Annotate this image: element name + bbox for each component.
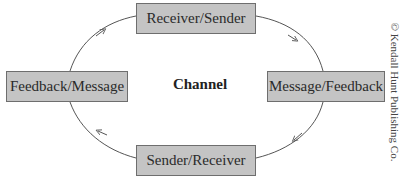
arrow-bottom-to-left xyxy=(70,102,136,158)
channel-label: Channel xyxy=(150,76,250,93)
arrowhead-bottom-to-left xyxy=(98,131,107,135)
node-label: Message/Feedback xyxy=(269,78,383,95)
arrowhead-top-to-right xyxy=(288,35,296,40)
arrow-left-to-top xyxy=(70,16,136,71)
node-label: Receiver/Sender xyxy=(146,10,245,27)
arrow-top-to-right xyxy=(256,16,323,71)
node-sender-receiver: Sender/Receiver xyxy=(136,145,256,176)
node-message-feedback: Message/Feedback xyxy=(267,71,385,102)
arrow-right-to-bottom xyxy=(256,102,323,158)
node-label: Feedback/Message xyxy=(10,78,124,95)
node-label: Sender/Receiver xyxy=(146,152,245,169)
node-feedback-message: Feedback/Message xyxy=(6,71,128,102)
node-receiver-sender: Receiver/Sender xyxy=(136,3,256,34)
copyright-credit: © Kendall Hunt Publishing Co. xyxy=(389,23,401,162)
